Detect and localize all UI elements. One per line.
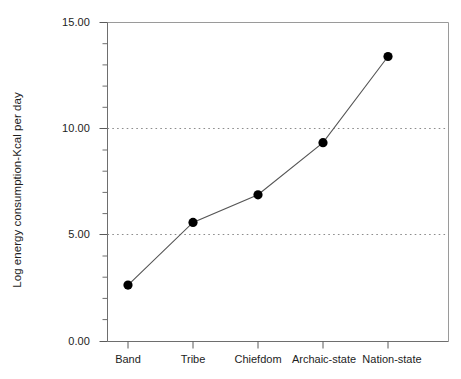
x-tick-label-tribe: Tribe — [181, 353, 206, 365]
data-point[interactable] — [383, 52, 392, 61]
y-tick-label-5: 5.00 — [42, 228, 90, 240]
y-tick-label-0: 0.00 — [42, 335, 90, 347]
y-major-ticks — [100, 23, 108, 342]
data-point[interactable] — [188, 218, 197, 227]
gridlines — [108, 129, 449, 235]
y-minor-ticks — [103, 44, 108, 320]
x-tick-label-archaic-state: Archaic-state — [292, 353, 356, 365]
data-points — [123, 52, 392, 290]
y-axis-title-text: Log energy consumption-Kcal per day — [11, 92, 23, 287]
plot-frame — [108, 23, 449, 342]
y-tick-label-15: 15.00 — [42, 16, 90, 28]
y-axis-title: Log energy consumption-Kcal per day — [6, 0, 28, 379]
data-line — [128, 57, 388, 286]
data-point[interactable] — [318, 138, 327, 147]
x-tick-label-nation-state: Nation-state — [362, 353, 421, 365]
x-ticks — [128, 342, 388, 349]
plot-area — [0, 0, 461, 379]
data-point[interactable] — [123, 281, 132, 290]
line-chart: Log energy consumption-Kcal per day 15.0… — [0, 0, 461, 379]
x-tick-label-band: Band — [115, 353, 141, 365]
x-tick-label-chiefdom: Chiefdom — [234, 353, 281, 365]
y-tick-label-10: 10.00 — [42, 122, 90, 134]
data-point[interactable] — [253, 190, 262, 199]
